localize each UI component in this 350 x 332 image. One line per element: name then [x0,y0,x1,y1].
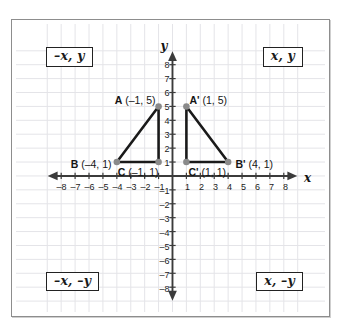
x-tick-label--4: –4 [112,183,122,192]
quadrant-label-second: –x, y [46,47,93,67]
point-label-b-prime: B' (4, 1) [236,159,274,170]
y-tick-label-4: 4 [164,117,169,126]
x-tick-label-4: 4 [227,183,232,192]
y-tick-label-5: 5 [164,103,169,112]
x-tick-label--6: –6 [84,183,94,192]
point-label-a-prime: A' (1, 5) [190,95,228,106]
y-tick-label-6: 6 [164,89,169,98]
point-label-c-coords: (–1, 1) [125,166,158,178]
vertex-dot-b-prime [225,159,232,166]
x-axis-label: x [304,172,311,184]
y-axis-label: y [161,40,168,52]
y-tick-label--5: –5 [159,243,169,252]
axis-lines [48,51,298,301]
point-label-a-coords: (–1, 5) [122,94,155,106]
quadrant-label-third: –x, –y [46,272,99,292]
point-label-c-prime: C' (1, 1) [189,167,227,178]
point-label-c-prime-name: C' [189,166,199,178]
point-label-b-prime-name: B' [236,158,246,170]
y-tick-label--7: –7 [159,271,169,280]
y-tick-label--4: –4 [159,229,169,238]
point-label-c-name: C [118,166,126,178]
vertex-dot-c [155,159,162,166]
x-tick-label--2: –2 [140,183,150,192]
y-tick-label--6: –6 [159,257,169,266]
y-tick-label-2: 2 [164,145,169,154]
point-label-a-prime-name: A' [190,94,200,106]
y-tick-label--8: –8 [159,285,169,294]
point-label-c: C (–1, 1) [118,167,159,178]
y-tick-label--1: –1 [159,187,169,196]
x-tick-label-8: 8 [283,183,288,192]
x-tick-label--5: –5 [98,183,108,192]
figure-frame: –8–7–6–5–4–3–2–11234567887654321–1–2–3–4… [11,19,330,317]
point-label-a: A (–1, 5) [115,95,156,106]
vertex-dot-b [114,159,121,166]
x-tick-label-6: 6 [255,183,260,192]
x-tick-label--3: –3 [126,183,136,192]
point-label-b-coords: (–4, 1) [78,158,111,170]
x-tick-label--8: –8 [56,183,66,192]
x-tick-label-7: 7 [269,183,274,192]
quadrant-label-first: x, y [263,47,303,67]
vertex-dot-c-prime [183,159,190,166]
y-tick-label--3: –3 [159,215,169,224]
point-label-b: B (–4, 1) [71,159,112,170]
point-label-b-prime-coords: (4, 1) [246,158,273,170]
grid-lines [16,24,325,312]
y-tick-label-7: 7 [164,75,169,84]
x-tick-label--7: –7 [70,183,80,192]
point-label-a-prime-coords: (1, 5) [200,94,227,106]
y-tick-label-1: 1 [164,159,169,168]
x-tick-label-1: 1 [185,183,190,192]
y-tick-label-8: 8 [164,61,169,70]
x-tick-label-3: 3 [213,183,218,192]
point-label-a-name: A [115,94,123,106]
x-tick-label-5: 5 [241,183,246,192]
y-tick-label--2: –2 [159,201,169,210]
point-label-b-name: B [71,158,79,170]
quadrant-label-fourth: x, –y [256,272,303,292]
vertex-dot-a [155,103,162,110]
point-label-c-prime-coords: (1, 1) [199,166,226,178]
x-tick-label-2: 2 [199,183,204,192]
y-tick-label-3: 3 [164,131,169,140]
